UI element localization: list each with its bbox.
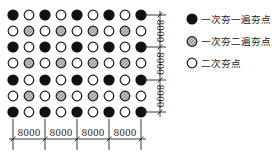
legend-item-first-pass-second-round: 一次夯二遍夯点 — [187, 36, 271, 47]
open-circle-icon — [24, 42, 34, 52]
open-circle-icon — [56, 75, 66, 85]
dimension-label: 8000 — [18, 128, 41, 138]
hatched-circle-icon — [56, 58, 66, 68]
open-circle-icon — [104, 58, 114, 68]
open-circle-icon — [88, 75, 98, 85]
filled-circle-icon — [7, 106, 18, 117]
open-circle-icon — [136, 58, 146, 68]
hatched-circle-icon — [24, 26, 34, 36]
open-circle-icon — [56, 107, 66, 117]
hatched-circle-icon — [56, 91, 66, 101]
open-circle-icon — [40, 58, 50, 68]
open-circle-icon — [8, 58, 18, 68]
legend-item-first-pass-first-round: 一次夯一遍夯点 — [187, 14, 272, 25]
filled-circle-icon — [39, 106, 50, 117]
open-circle-icon — [24, 10, 34, 20]
filled-circle-icon — [7, 41, 18, 52]
filled-circle-icon — [103, 41, 114, 52]
open-circle-icon — [88, 10, 98, 20]
open-circle-icon — [72, 26, 82, 36]
filled-circle-icon — [187, 14, 198, 25]
hatched-circle-icon — [88, 58, 98, 68]
filled-circle-icon — [7, 74, 18, 85]
hatched-circle-icon — [120, 58, 130, 68]
dimension-label: 8000 — [82, 128, 105, 138]
filled-circle-icon — [103, 74, 114, 85]
legend-item-second-pass: 二次夯点 — [187, 58, 241, 69]
dimension-label: 8000 — [114, 128, 137, 138]
open-circle-icon — [120, 42, 130, 52]
open-circle-icon — [56, 42, 66, 52]
filled-circle-icon — [71, 74, 82, 85]
legend: 一次夯一遍夯点 一次夯二遍夯点 二次夯点 — [187, 14, 272, 69]
open-circle-icon — [24, 75, 34, 85]
filled-circle-icon — [39, 41, 50, 52]
filled-circle-icon — [103, 106, 114, 117]
legend-label: 二次夯点 — [201, 58, 241, 69]
open-circle-icon — [8, 26, 18, 36]
tamping-point-grid — [7, 9, 146, 117]
open-circle-icon — [136, 91, 146, 101]
hatched-circle-icon — [88, 26, 98, 36]
hatched-circle-icon — [24, 58, 34, 68]
open-circle-icon — [56, 10, 66, 20]
open-circle-icon — [120, 10, 130, 20]
compaction-layout-diagram: 8000 8000 8000 8000 8000 8000 8000 一次夯一遍… — [0, 0, 276, 161]
open-circle-icon — [24, 107, 34, 117]
hatched-circle-icon — [120, 91, 130, 101]
hatched-circle-icon — [187, 37, 197, 47]
open-circle-icon — [120, 107, 130, 117]
open-circle-icon — [104, 91, 114, 101]
filled-circle-icon — [71, 41, 82, 52]
hatched-circle-icon — [24, 91, 34, 101]
open-circle-icon — [40, 26, 50, 36]
open-circle-icon — [40, 91, 50, 101]
dimension-label: 8000 — [155, 85, 165, 108]
hatched-circle-icon — [56, 26, 66, 36]
dimension-label: 8000 — [50, 128, 73, 138]
open-circle-icon — [72, 58, 82, 68]
filled-circle-icon — [71, 106, 82, 117]
filled-circle-icon — [103, 9, 114, 20]
filled-circle-icon — [39, 74, 50, 85]
legend-label: 一次夯一遍夯点 — [201, 14, 271, 25]
open-circle-icon — [88, 107, 98, 117]
open-circle-icon — [8, 91, 18, 101]
hatched-circle-icon — [120, 26, 130, 36]
open-circle-icon — [120, 75, 130, 85]
open-circle-icon — [136, 26, 146, 36]
open-circle-icon — [187, 58, 197, 68]
legend-label: 一次夯二遍夯点 — [201, 36, 271, 47]
vertical-dimension: 8000 8000 8000 — [143, 11, 166, 117]
open-circle-icon — [72, 91, 82, 101]
horizontal-dimension: 8000 8000 8000 8000 — [9, 119, 146, 150]
filled-circle-icon — [39, 9, 50, 20]
dimension-label: 8000 — [155, 20, 165, 43]
filled-circle-icon — [7, 9, 18, 20]
dimension-label: 8000 — [155, 52, 165, 75]
open-circle-icon — [88, 42, 98, 52]
open-circle-icon — [104, 26, 114, 36]
hatched-circle-icon — [88, 91, 98, 101]
filled-circle-icon — [71, 9, 82, 20]
